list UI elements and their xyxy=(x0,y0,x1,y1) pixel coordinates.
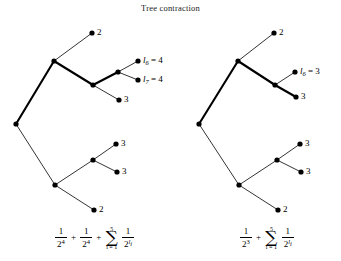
left-formula-term1-exponent: 4 xyxy=(62,238,65,245)
right-node-upper-branch xyxy=(235,58,240,63)
right-node-leaf-top2 xyxy=(271,30,276,35)
sigma-icon: ∑ xyxy=(106,231,118,245)
left-label-leaf-top2: 2 xyxy=(97,28,102,37)
right-tree-edges xyxy=(199,33,301,210)
left-formula-sum-lower-limit: i = 1 xyxy=(106,244,118,250)
left-edge-upper-to-mid xyxy=(54,61,93,85)
right-label-leaf-bottom2: 2 xyxy=(283,205,288,214)
left-label-l7-subscript: 7 xyxy=(146,78,149,85)
right-node-lower-branch xyxy=(236,182,241,187)
left-formula-term2-exponent: 4 xyxy=(87,238,90,245)
left-node-mid xyxy=(90,82,95,87)
left-label-leaf-mid3: 3 xyxy=(124,95,129,104)
left-label-leaf-lower3a: 3 xyxy=(121,139,126,148)
right-edge-lower-to-leaf2 xyxy=(239,185,278,210)
left-formula-plus2: + xyxy=(95,233,102,242)
left-node-lower-mid xyxy=(90,157,95,162)
right-node-leaf-lower3b xyxy=(298,169,303,174)
right-edge-mid-to-l6 xyxy=(275,72,295,85)
left-label-leaf-lower3b: 3 xyxy=(122,167,127,176)
left-label-leaf-l7: l7 = 4 xyxy=(143,75,163,85)
left-node-upper-branch xyxy=(51,58,56,63)
right-label-leaf-l6: l6 = 3 xyxy=(300,67,320,77)
left-node-leaf-l7 xyxy=(135,77,140,82)
right-formula-summand-denominator: 2li xyxy=(282,239,294,249)
left-formula-summand-exponent: li xyxy=(129,238,133,245)
left-edge-mid-to-leaf3 xyxy=(93,85,119,100)
right-node-lower-mid xyxy=(274,157,279,162)
left-formula-summand-exponent-subscript: i xyxy=(130,239,132,246)
left-formula-term2: 1 24 xyxy=(80,227,92,249)
right-node-leaf-bottom2 xyxy=(275,207,280,212)
right-formula-term1-numerator: 1 xyxy=(240,227,252,236)
left-tree-nodes xyxy=(13,30,140,212)
right-formula-summation: 5 ∑ i = 1 xyxy=(265,226,277,250)
left-formula-summand-numerator: 1 xyxy=(122,227,134,236)
left-node-leaf-mid3 xyxy=(116,97,121,102)
right-label-l6-subscript: 6 xyxy=(303,70,306,77)
right-formula-summand-numerator: 1 xyxy=(282,227,294,236)
tree-diagram-svg xyxy=(0,0,341,261)
left-node-leaf-top2 xyxy=(89,30,94,35)
right-label-leaf-mid3: 3 xyxy=(301,92,306,101)
left-formula-plus1: + xyxy=(70,233,77,242)
right-formula-summand-exponent-subscript: i xyxy=(290,239,292,246)
right-tree-formula: 1 23 + 5 ∑ i = 1 1 2li xyxy=(239,226,295,250)
left-formula-summand: 1 2li xyxy=(122,227,134,249)
right-edge-root-to-lower xyxy=(199,124,239,185)
right-node-leaf-l6 xyxy=(292,69,297,74)
left-node-leaf-l6 xyxy=(135,58,140,63)
left-edge-lower-to-leaf2 xyxy=(55,185,94,210)
right-edge-mid-to-leaf3 xyxy=(275,85,296,97)
right-node-root xyxy=(196,121,201,126)
right-label-leaf-top2: 2 xyxy=(279,28,284,37)
right-formula-term1: 1 23 xyxy=(240,227,252,249)
left-edge-root-to-upper xyxy=(16,61,54,124)
left-edge-lowermid-to-leaf3a xyxy=(93,144,116,160)
left-edge-lowermid-to-leaf3b xyxy=(93,160,117,172)
left-formula-term2-denominator: 24 xyxy=(80,239,92,249)
left-tree-edges xyxy=(16,33,138,210)
right-formula-term1-denominator: 23 xyxy=(240,239,252,249)
right-node-mid xyxy=(272,82,277,87)
left-edge-lower-to-lowermid xyxy=(55,160,93,185)
right-label-l6-value: = 3 xyxy=(308,66,320,76)
left-node-root xyxy=(13,121,18,126)
left-formula-term1-denominator: 24 xyxy=(55,239,67,249)
right-edge-upper-to-leaf2 xyxy=(238,33,274,61)
left-edge-upper-to-leaf2 xyxy=(54,33,92,61)
left-tree-formula: 1 24 + 1 24 + 5 ∑ i = 1 1 2li xyxy=(54,226,135,250)
left-node-leaf-lower3a xyxy=(113,141,118,146)
left-formula-summation: 5 ∑ i = 1 xyxy=(106,226,118,250)
left-label-l7-value: = 4 xyxy=(151,74,163,84)
left-label-leaf-l6: l6 = 4 xyxy=(143,56,163,66)
left-node-leaf-lower3b xyxy=(114,169,119,174)
sigma-icon: ∑ xyxy=(265,231,277,245)
left-label-leaf-bottom2: 2 xyxy=(99,205,104,214)
right-node-leaf-mid3 xyxy=(293,94,298,99)
right-formula-summand-exponent: li xyxy=(288,238,292,245)
left-node-leaf-bottom2 xyxy=(91,207,96,212)
left-formula-summand-denominator: 2li xyxy=(122,239,134,249)
right-edge-root-to-upper xyxy=(199,61,238,124)
left-node-lower-branch xyxy=(52,182,57,187)
right-label-leaf-lower3a: 3 xyxy=(305,139,310,148)
left-formula-term2-numerator: 1 xyxy=(80,227,92,236)
left-edge-root-to-lower xyxy=(16,124,55,185)
left-label-l6-subscript: 6 xyxy=(146,59,149,66)
right-edge-lowermid-to-leaf3b xyxy=(277,160,301,172)
left-edge-inner-to-l6 xyxy=(118,61,138,72)
right-formula-sum-lower-limit: i = 1 xyxy=(265,244,277,250)
right-edge-lowermid-to-leaf3a xyxy=(277,144,300,160)
right-edge-upper-to-mid xyxy=(238,61,275,85)
left-edge-inner-to-l7 xyxy=(118,72,138,80)
right-formula-term1-exponent: 3 xyxy=(247,238,250,245)
right-edge-lower-to-lowermid xyxy=(239,160,277,185)
right-formula-summand: 1 2li xyxy=(282,227,294,249)
left-formula-term1: 1 24 xyxy=(55,227,67,249)
right-label-leaf-lower3b: 3 xyxy=(306,167,311,176)
figure-canvas: Tree contraction xyxy=(0,0,341,261)
right-node-leaf-lower3a xyxy=(297,141,302,146)
left-node-inner xyxy=(115,69,120,74)
left-edge-mid-to-inner xyxy=(93,72,118,85)
